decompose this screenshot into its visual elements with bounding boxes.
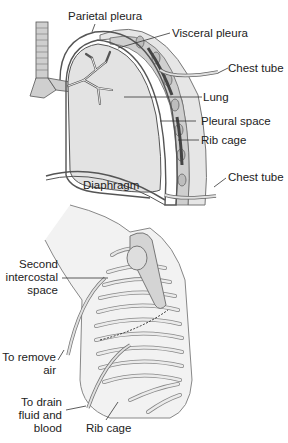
label-chest-tube-upper: Chest tube bbox=[228, 62, 284, 75]
label-rib-cage-top: Rib cage bbox=[201, 134, 246, 147]
torso-rib-cage bbox=[45, 205, 192, 420]
label-pleural-space: Pleural space bbox=[201, 115, 271, 128]
label-chest-tube-lower: Chest tube bbox=[228, 171, 284, 184]
label-drain-1: To drain bbox=[0, 396, 62, 409]
label-remove-air-2: air bbox=[0, 364, 56, 377]
label-second-intercostal-1: Second bbox=[0, 258, 58, 271]
label-visceral-pleura: Visceral pleura bbox=[172, 27, 248, 40]
label-remove-air-1: To remove bbox=[0, 351, 56, 364]
thoracic-cross-section bbox=[30, 22, 228, 205]
label-diaphragm: Diaphragm bbox=[83, 179, 139, 192]
label-lung: Lung bbox=[203, 91, 229, 104]
label-rib-cage-bottom: Rib cage bbox=[86, 422, 131, 435]
label-second-intercostal-3: space bbox=[0, 284, 58, 297]
label-second-intercostal-2: intercostal bbox=[0, 271, 58, 284]
label-drain-3: blood bbox=[0, 422, 62, 435]
label-parietal-pleura: Parietal pleura bbox=[68, 10, 142, 23]
label-drain-2: fluid and bbox=[0, 409, 62, 422]
